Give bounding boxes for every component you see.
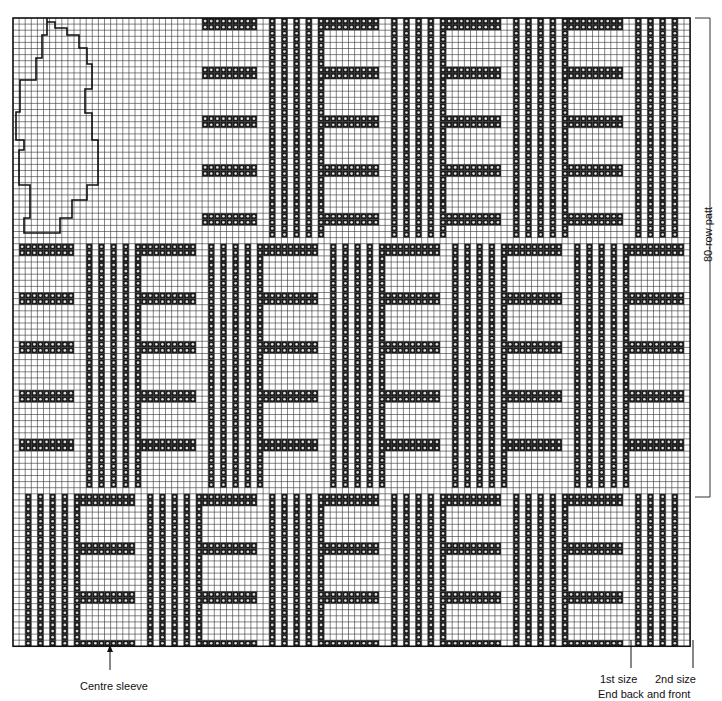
centre-sleeve-label: Centre sleeve bbox=[80, 680, 148, 692]
end-back-front-label: End back and front bbox=[598, 688, 690, 700]
first-size-label: 1st size bbox=[600, 673, 637, 685]
pattern-repeat-label: 80-row patt bbox=[702, 207, 714, 262]
knitting-chart bbox=[0, 0, 722, 701]
second-size-label: 2nd size bbox=[655, 673, 696, 685]
